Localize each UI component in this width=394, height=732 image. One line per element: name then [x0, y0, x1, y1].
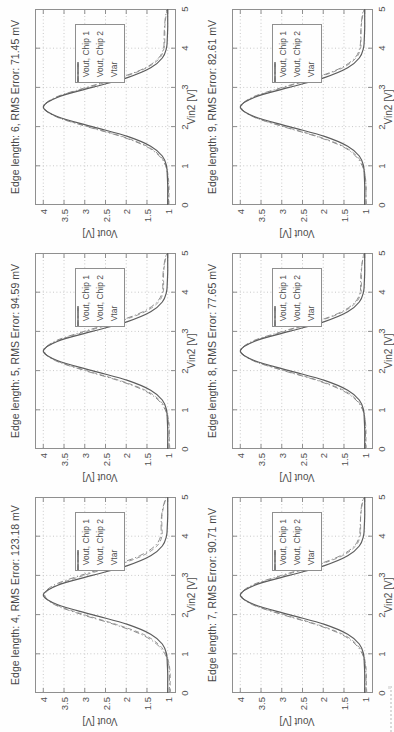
xtick-label: 1 — [376, 407, 387, 412]
ytick-label: 3 — [80, 697, 91, 732]
solid-line-sample-icon — [273, 550, 277, 570]
ytick-label: 4 — [38, 697, 49, 732]
scanned-figure-page: Edge length: 4, RMS Error: 123.18 mV Vou… — [0, 0, 394, 732]
plot-axes: Vout, Chip 1 Vout, Chip 2 Vtar — [232, 9, 373, 205]
panel-title: Edge length: 4, RMS Error: 123.18 mV — [9, 497, 22, 693]
ytick-label: 1 — [163, 453, 174, 488]
xtick-label: 1 — [376, 651, 387, 656]
ytick-label: 3.5 — [59, 697, 70, 732]
ytick-label: 3.5 — [256, 209, 267, 244]
ytick-label: 2 — [318, 697, 329, 732]
xtick-label: 5 — [376, 494, 387, 499]
legend-item-chip1: Vout, Chip 1 — [276, 519, 290, 565]
legend: Vout, Chip 1 Vout, Chip 2 Vtar — [272, 24, 322, 83]
legend-label: Vout, Chip 2 — [290, 519, 304, 565]
ytick-label: 2.5 — [101, 453, 112, 488]
xtick-label: 5 — [376, 250, 387, 255]
legend-label: Vout, Chip 1 — [79, 31, 93, 77]
legend: Vout, Chip 1 Vout, Chip 2 Vtar — [75, 24, 125, 83]
yaxis-label: Vout [V] — [82, 228, 117, 239]
ytick-label: 4 — [38, 209, 49, 244]
xtick-label: 2 — [376, 124, 387, 129]
legend-item-chip2: Vout, Chip 2 — [93, 519, 107, 565]
xtick-label: 5 — [179, 6, 190, 11]
ytick-label: 3 — [277, 697, 288, 732]
ytick-label: 1 — [163, 697, 174, 732]
legend-label: Vtar — [107, 550, 121, 566]
legend: Vout, Chip 1 Vout, Chip 2 Vtar — [75, 268, 125, 327]
legend-item-vtar: Vtar — [304, 31, 318, 77]
ytick-label: 2.5 — [298, 209, 309, 244]
xtick-label: 4 — [376, 289, 387, 294]
ytick-label: 3 — [80, 453, 91, 488]
legend-item-chip1: Vout, Chip 1 — [79, 31, 93, 77]
legend-label: Vtar — [107, 62, 121, 78]
legend: Vout, Chip 1 Vout, Chip 2 Vtar — [272, 512, 322, 571]
ytick-label: 4 — [235, 453, 246, 488]
legend-label: Vout, Chip 1 — [276, 31, 290, 77]
ytick-label: 1.5 — [142, 209, 153, 244]
ytick-label: 1.5 — [142, 697, 153, 732]
ytick-label: 1 — [360, 697, 371, 732]
legend-label: Vout, Chip 2 — [93, 519, 107, 565]
xtick-label: 2 — [179, 368, 190, 373]
xtick-label: 0 — [376, 690, 387, 695]
ytick-label: 2 — [121, 209, 132, 244]
legend: Vout, Chip 1 Vout, Chip 2 Vtar — [75, 512, 125, 571]
xtick-label: 5 — [179, 494, 190, 499]
yaxis-label: Vout [V] — [82, 472, 117, 483]
xaxis-label: Vin2 [V] — [383, 90, 394, 125]
legend-item-chip2: Vout, Chip 2 — [290, 275, 304, 321]
legend-label: Vtar — [304, 306, 318, 322]
xtick-label: 1 — [179, 407, 190, 412]
ytick-label: 3.5 — [59, 453, 70, 488]
solid-line-sample-icon — [273, 62, 277, 82]
xtick-label: 2 — [376, 612, 387, 617]
xtick-label: 5 — [376, 6, 387, 11]
ytick-label: 2 — [318, 209, 329, 244]
ytick-label: 1.5 — [339, 209, 350, 244]
panel-title: Edge length: 9, RMS Error: 82.61 mV — [206, 9, 219, 205]
figure-panel: Edge length: 9, RMS Error: 82.61 mV Vout… — [197, 0, 394, 244]
legend-label: Vout, Chip 1 — [79, 519, 93, 565]
plot-axes: Vout, Chip 1 Vout, Chip 2 Vtar — [232, 253, 373, 449]
xtick-label: 1 — [179, 651, 190, 656]
legend-item-chip1: Vout, Chip 1 — [276, 275, 290, 321]
xaxis-label: Vin2 [V] — [383, 578, 394, 613]
legend-item-chip2: Vout, Chip 2 — [290, 31, 304, 77]
panel-title: Edge length: 5, RMS Error: 94.59 mV — [9, 253, 22, 449]
xtick-label: 0 — [179, 446, 190, 451]
ytick-label: 2 — [121, 453, 132, 488]
ytick-label: 3.5 — [59, 209, 70, 244]
figure-panel: Edge length: 4, RMS Error: 123.18 mV Vou… — [0, 488, 197, 732]
legend-item-chip1: Vout, Chip 1 — [79, 275, 93, 321]
xaxis-label: Vin2 [V] — [186, 334, 197, 369]
yaxis-label: Vout [V] — [279, 228, 314, 239]
ytick-label: 3 — [277, 453, 288, 488]
solid-line-sample-icon — [76, 306, 80, 326]
xaxis-label: Vin2 [V] — [383, 334, 394, 369]
xtick-label: 1 — [376, 163, 387, 168]
xtick-label: 5 — [179, 250, 190, 255]
rotated-figure: Edge length: 4, RMS Error: 123.18 mV Vou… — [0, 0, 394, 732]
solid-line-sample-icon — [273, 306, 277, 326]
yaxis-label: Vout [V] — [279, 472, 314, 483]
figure-panel: Edge length: 5, RMS Error: 94.59 mV Vout… — [0, 244, 197, 488]
legend-item-chip2: Vout, Chip 2 — [93, 31, 107, 77]
legend: Vout, Chip 1 Vout, Chip 2 Vtar — [272, 268, 322, 327]
xtick-label: 0 — [376, 446, 387, 451]
ytick-label: 3.5 — [256, 697, 267, 732]
ytick-label: 1.5 — [142, 453, 153, 488]
ytick-label: 1.5 — [339, 697, 350, 732]
legend-item-vtar: Vtar — [107, 275, 121, 321]
legend-item-chip2: Vout, Chip 2 — [290, 519, 304, 565]
legend-label: Vout, Chip 2 — [290, 31, 304, 77]
legend-label: Vout, Chip 2 — [290, 275, 304, 321]
figure-panel: Edge length: 7, RMS Error: 90.71 mV Vout… — [197, 488, 394, 732]
legend-item-vtar: Vtar — [304, 519, 318, 565]
legend-label: Vtar — [107, 306, 121, 322]
legend-label: Vtar — [304, 62, 318, 78]
ytick-label: 3 — [80, 209, 91, 244]
ytick-label: 1 — [360, 453, 371, 488]
ytick-label: 1.5 — [339, 453, 350, 488]
